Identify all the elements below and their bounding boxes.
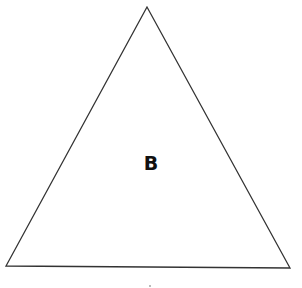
triangle-shape [6,7,290,268]
scan-artifact [149,285,151,287]
diagram-canvas [0,0,302,288]
triangle-label: B [140,152,162,174]
